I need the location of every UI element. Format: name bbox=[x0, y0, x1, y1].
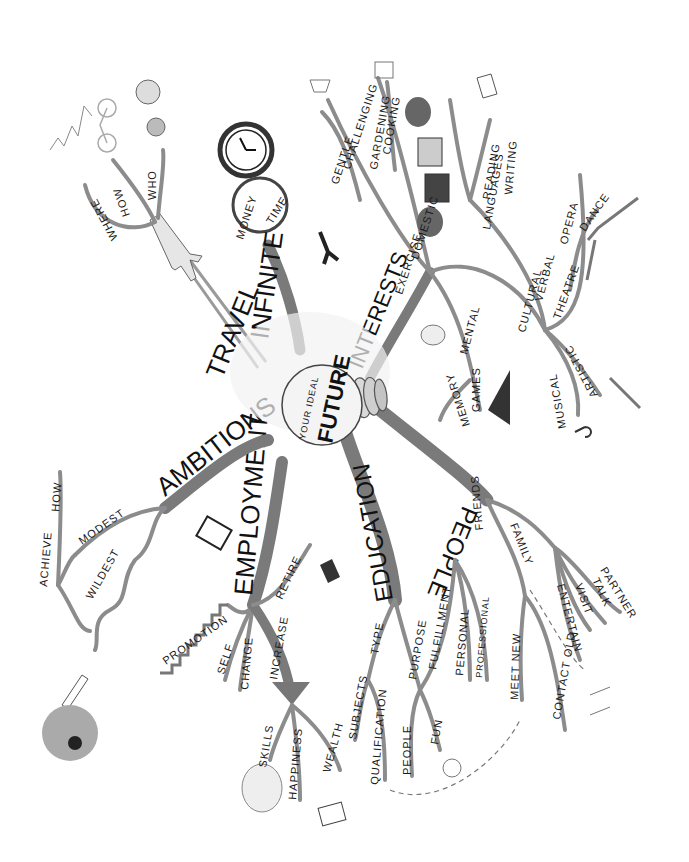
mental-games: GAMES bbox=[470, 367, 482, 412]
cake-icon bbox=[375, 62, 393, 78]
music-note-icon bbox=[575, 427, 591, 437]
people-icon bbox=[136, 80, 165, 136]
glasses-icon bbox=[590, 687, 610, 715]
money-hand-icon bbox=[318, 802, 346, 826]
education-label: EDUCATION bbox=[347, 462, 398, 604]
travel-who: WHO bbox=[146, 170, 158, 200]
theatre-opera: OPERA bbox=[557, 200, 580, 245]
education-fulfillment: FULFILLMENT bbox=[426, 585, 453, 671]
purpose-people: PEOPLE bbox=[401, 725, 413, 775]
explosion-icon bbox=[42, 705, 98, 761]
education-type: TYPE bbox=[368, 621, 386, 655]
baby-icon bbox=[242, 764, 282, 812]
walking-legs-icon bbox=[320, 232, 338, 264]
plane-icon bbox=[150, 214, 202, 281]
modest-achieve: ACHIEVE bbox=[37, 531, 54, 587]
type-subjects: SUBJECTS bbox=[346, 674, 369, 741]
mountains-icon bbox=[50, 106, 92, 150]
employment-change: CHANGE bbox=[238, 636, 255, 690]
flag-icon bbox=[418, 138, 449, 202]
briefcase-icon bbox=[196, 516, 231, 549]
employment-retire: RETIRE bbox=[273, 554, 303, 601]
ambitions-wildest: WILDEST bbox=[83, 547, 121, 601]
branch-people: PEOPLE FRIENDS MEET NEW CONTACT OLD FAMI… bbox=[380, 410, 640, 795]
trowel-icon bbox=[310, 80, 330, 92]
brain-icon bbox=[421, 325, 445, 345]
paintbrush-icon bbox=[610, 378, 640, 408]
mind-map: TRAVEL WHERE HOW WHO INFINITE MONEY TIME bbox=[0, 0, 689, 862]
cultural-musical: MUSICAL bbox=[546, 373, 568, 430]
book-icon bbox=[477, 74, 497, 98]
chess-board-icon bbox=[488, 370, 510, 425]
friends-meet-new: MEET NEW bbox=[508, 633, 522, 700]
smiley-icon bbox=[443, 759, 461, 777]
increase-wealth: WEALTH bbox=[320, 721, 345, 773]
people-family: FAMILY bbox=[508, 521, 536, 567]
verbal-writing: WRITING bbox=[502, 140, 519, 196]
grad-book-icon bbox=[320, 559, 340, 583]
rocket-icon bbox=[62, 675, 88, 709]
clock-icon bbox=[220, 124, 272, 176]
ambitions-modest: MODEST bbox=[76, 506, 126, 546]
cultural-artistic: ARTISTIC bbox=[562, 343, 600, 400]
bicycle-icon bbox=[98, 99, 116, 152]
travel-how: HOW bbox=[110, 186, 131, 218]
